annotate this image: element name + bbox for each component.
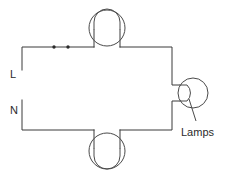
wire-neutral-left-segment [22, 100, 94, 130]
lamp-top-filament [94, 9, 120, 30]
junction-dot-1 [52, 45, 55, 48]
wire-line-right-segment [120, 47, 179, 85]
line-conductor-group [22, 47, 179, 85]
neutral-conductor-group [22, 100, 179, 130]
lamp-bottom [89, 130, 125, 169]
circuit-schematic-canvas: L N Lamps [0, 0, 227, 178]
terminal-label-line: L [10, 68, 16, 80]
lamp-right-envelope [178, 78, 208, 108]
wire-line-left-segment [22, 47, 94, 70]
lamp-bottom-filament [94, 148, 120, 169]
lamp-right-filament [179, 85, 190, 101]
wire-neutral-right-segment [120, 101, 179, 130]
terminal-label-neutral: N [10, 104, 18, 116]
lamps-callout-label: Lamps [181, 126, 215, 138]
circuit-diagram: L N Lamps [0, 0, 227, 178]
lamp-top [89, 9, 125, 47]
lamps-leader-line [189, 99, 196, 121]
junction-dot-2 [66, 45, 69, 48]
lamp-right [178, 78, 208, 108]
